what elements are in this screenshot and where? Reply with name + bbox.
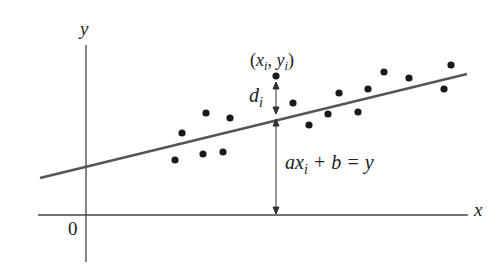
data-point — [226, 114, 233, 121]
height-arrow — [273, 119, 279, 214]
line-equation-label: axi + b = y — [285, 151, 374, 178]
data-point — [440, 85, 447, 92]
data-point — [364, 85, 371, 92]
point-label: (xi, yi) — [250, 50, 294, 74]
data-point — [405, 74, 412, 81]
data-point — [219, 148, 226, 155]
x-axis-label: x — [474, 199, 482, 221]
data-point — [335, 89, 342, 96]
data-point — [447, 61, 454, 68]
y-axis-label: y — [80, 18, 88, 40]
data-point — [324, 110, 331, 117]
data-point — [178, 129, 185, 136]
data-point — [199, 150, 206, 157]
regression-diagram: y x 0 (xi, yi) di axi + b = y — [0, 0, 502, 267]
data-point — [202, 109, 209, 116]
data-point — [380, 68, 387, 75]
data-point — [171, 156, 178, 163]
origin-label: 0 — [68, 218, 78, 240]
data-point — [305, 121, 312, 128]
residual-arrow — [273, 82, 279, 114]
data-point — [289, 99, 296, 106]
data-point — [354, 108, 361, 115]
residual-label: di — [249, 84, 263, 111]
